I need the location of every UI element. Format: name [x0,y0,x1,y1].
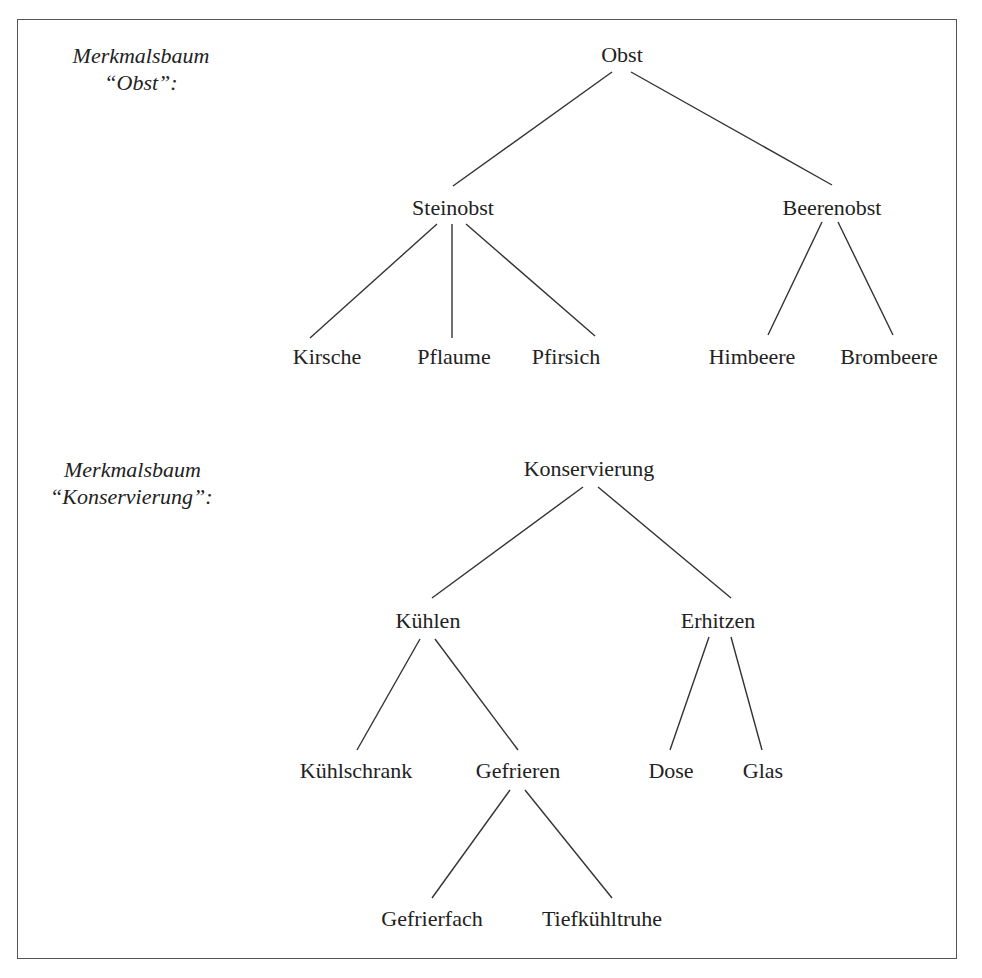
node-erhitzen: Erhitzen [681,608,756,634]
edge-erhitzen-dose [670,637,709,750]
node-kirsche: Kirsche [293,344,361,370]
node-beerenobst: Beerenobst [783,195,882,221]
edge-konservierung-erhitzen [598,487,731,598]
caption-obst: Merkmalsbaum “Obst”: [50,42,232,96]
node-dose: Dose [648,758,693,784]
caption-obst-line2: “Obst”: [50,69,232,96]
edge-obst-steinobst [453,72,612,186]
node-gefrieren: Gefrieren [476,758,560,784]
node-obst: Obst [601,42,643,68]
caption-konservierung: Merkmalsbaum “Konservierung”: [50,456,250,510]
node-kuehlen: Kühlen [396,608,461,634]
node-pflaume: Pflaume [417,344,490,370]
edge-beerenobst-himbeere [768,222,822,335]
edge-kuehlen-kuehlschrank [357,639,420,750]
edge-gefrieren-tiefkuehltruhe [525,790,612,898]
node-pfirsich: Pfirsich [532,344,600,370]
edge-beerenobst-brombeere [838,222,893,335]
caption-konservierung-line1: Merkmalsbaum [50,456,250,483]
edge-kuehlen-gefrieren [435,639,518,750]
node-gefrierfach: Gefrierfach [381,906,482,932]
edge-steinobst-pfirsich [466,224,595,336]
caption-konservierung-line2: “Konservierung”: [50,483,250,510]
caption-obst-line1: Merkmalsbaum [50,42,232,69]
edge-erhitzen-glas [731,637,762,750]
node-tiefkuehltruhe: Tiefkühltruhe [542,906,662,932]
edge-konservierung-kuehlen [432,487,583,598]
edge-gefrieren-gefrierfach [432,790,510,898]
node-glas: Glas [743,758,783,784]
node-steinobst: Steinobst [412,195,494,221]
edge-obst-beerenobst [631,72,832,185]
node-konservierung: Konservierung [524,456,655,482]
node-himbeere: Himbeere [709,344,796,370]
node-kuehlschrank: Kühlschrank [300,758,412,784]
node-brombeere: Brombeere [840,344,938,370]
edge-steinobst-kirsche [310,224,437,338]
